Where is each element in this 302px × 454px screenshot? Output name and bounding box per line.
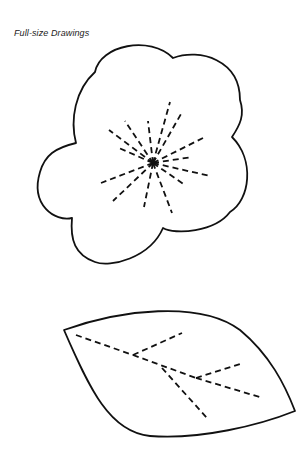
flower-drawing	[38, 45, 248, 263]
flower-stamen-lines	[101, 102, 210, 213]
drawings-canvas	[0, 0, 302, 454]
leaf-outline	[64, 311, 295, 437]
leaf-drawing	[64, 311, 295, 437]
leaf-vein-lines	[76, 333, 263, 418]
